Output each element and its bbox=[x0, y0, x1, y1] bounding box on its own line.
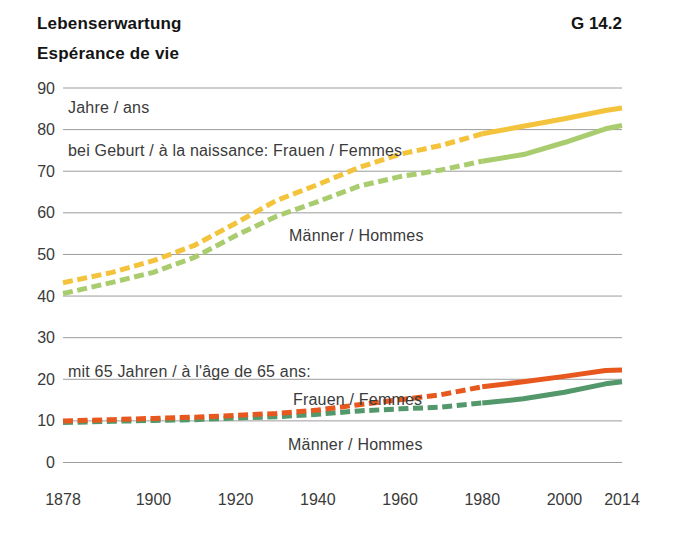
life-expectancy-chart: 0102030405060708090187819001920194019601… bbox=[0, 0, 675, 547]
y-tick-label-20: 20 bbox=[37, 371, 55, 388]
series-label-age65-women: Frauen / Femmes bbox=[293, 391, 422, 409]
x-tick-label-1878: 1878 bbox=[45, 491, 81, 508]
x-tick-label-1960: 1960 bbox=[382, 491, 418, 508]
y-tick-label-80: 80 bbox=[37, 121, 55, 138]
series-label-birth-men: Männer / Hommes bbox=[289, 227, 424, 245]
y-tick-label-40: 40 bbox=[37, 288, 55, 305]
y-tick-label-90: 90 bbox=[37, 80, 55, 97]
x-tick-label-1900: 1900 bbox=[136, 491, 172, 508]
y-tick-label-30: 30 bbox=[37, 329, 55, 346]
y-axis-unit-label: Jahre / ans bbox=[68, 99, 149, 117]
x-tick-label-1980: 1980 bbox=[464, 491, 500, 508]
y-tick-label-10: 10 bbox=[37, 412, 55, 429]
series-label-age65-men: Männer / Hommes bbox=[288, 436, 423, 454]
series-label-birth-women: bei Geburt / à la naissance: Frauen / Fe… bbox=[68, 142, 402, 160]
x-tick-label-1920: 1920 bbox=[218, 491, 254, 508]
y-tick-label-0: 0 bbox=[46, 454, 55, 471]
x-tick-label-2014: 2014 bbox=[604, 491, 640, 508]
group-label-age65: mit 65 Jahren / à l'âge de 65 ans: bbox=[68, 363, 311, 381]
x-tick-label-1940: 1940 bbox=[300, 491, 336, 508]
page: Lebenserwartung G 14.2 Espérance de vie … bbox=[0, 0, 675, 547]
y-tick-label-50: 50 bbox=[37, 246, 55, 263]
x-tick-label-2000: 2000 bbox=[547, 491, 583, 508]
y-tick-label-60: 60 bbox=[37, 204, 55, 221]
y-tick-label-70: 70 bbox=[37, 163, 55, 180]
